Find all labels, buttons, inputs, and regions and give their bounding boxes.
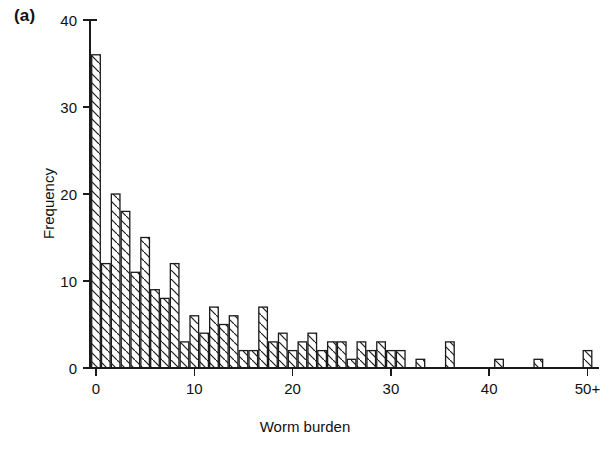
histogram-bar: [298, 342, 307, 368]
histogram-bar: [495, 359, 504, 368]
histogram-bar: [239, 351, 248, 368]
histogram-plot: 01020304001020304050+: [0, 0, 610, 451]
x-tick-label: 20: [284, 380, 301, 397]
bar-series: [92, 55, 592, 368]
histogram-bar: [190, 316, 199, 368]
histogram-bar: [259, 307, 268, 368]
y-tick-label: 10: [60, 273, 77, 290]
histogram-bar: [170, 264, 179, 368]
histogram-bar: [219, 325, 228, 369]
y-tick-label: 40: [60, 12, 77, 29]
x-tick-label: 40: [481, 380, 498, 397]
x-tick-label: 50+: [575, 380, 601, 397]
x-tick-label: 0: [92, 380, 100, 397]
histogram-bar: [121, 211, 130, 368]
histogram-bar: [308, 333, 317, 368]
histogram-bar: [337, 342, 346, 368]
histogram-bar: [328, 342, 337, 368]
histogram-bar: [92, 55, 101, 368]
histogram-bar: [180, 342, 189, 368]
histogram-bar: [318, 351, 327, 368]
histogram-bar: [131, 272, 140, 368]
x-tick-label: 30: [383, 380, 400, 397]
histogram-bar: [161, 298, 170, 368]
histogram-bar: [446, 342, 455, 368]
histogram-bar: [141, 238, 150, 369]
histogram-bar: [288, 351, 297, 368]
histogram-bar: [111, 194, 120, 368]
histogram-bar: [278, 333, 287, 368]
figure-panel-a: (a) Frequency Worm burden 01020304001020…: [0, 0, 610, 451]
histogram-bar: [583, 351, 592, 368]
histogram-bar: [229, 316, 238, 368]
histogram-bar: [210, 307, 219, 368]
histogram-bar: [534, 359, 543, 368]
histogram-bar: [102, 264, 111, 368]
y-tick-label: 20: [60, 186, 77, 203]
histogram-bar: [416, 359, 425, 368]
histogram-bar: [387, 351, 396, 368]
y-tick-label: 0: [69, 360, 77, 377]
histogram-bar: [269, 342, 278, 368]
histogram-bar: [377, 342, 386, 368]
histogram-bar: [151, 290, 160, 368]
histogram-bar: [367, 351, 376, 368]
y-tick-label: 30: [60, 99, 77, 116]
histogram-bar: [347, 359, 356, 368]
histogram-bar: [357, 342, 366, 368]
histogram-bar: [396, 351, 405, 368]
histogram-bar: [200, 333, 209, 368]
x-tick-label: 10: [186, 380, 203, 397]
histogram-bar: [249, 351, 258, 368]
